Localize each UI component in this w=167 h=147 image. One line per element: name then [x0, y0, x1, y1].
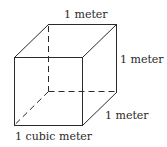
cube-top-left-depth-edge — [15, 25, 49, 58]
right-edge-label: 1 meter — [120, 53, 164, 66]
cube-hidden-bottom-depth-edge — [15, 92, 49, 125]
cube-top-right-depth-edge — [83, 25, 117, 58]
cube-diagram: 1 meter 1 meter 1 meter 1 cubic meter — [0, 0, 167, 147]
depth-edge-label: 1 meter — [105, 109, 149, 122]
top-edge-label: 1 meter — [64, 8, 108, 21]
volume-label: 1 cubic meter — [15, 130, 93, 143]
